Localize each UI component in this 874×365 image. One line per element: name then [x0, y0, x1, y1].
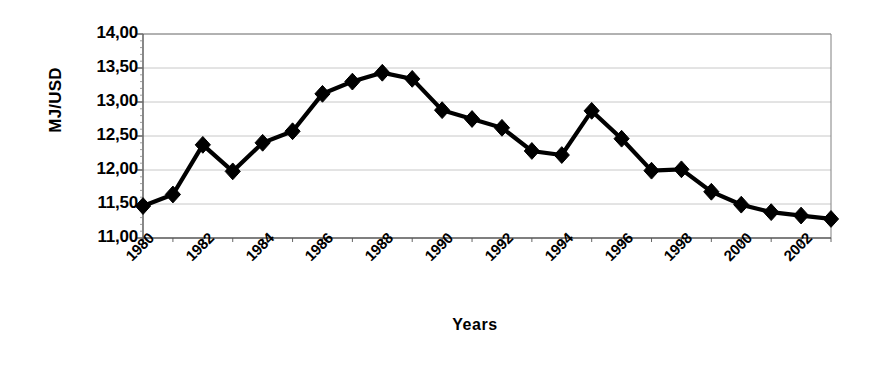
data-point-marker	[375, 64, 390, 81]
y-axis-tick-label: 11,50	[60, 193, 138, 213]
data-point-marker	[793, 207, 808, 224]
data-point-marker	[734, 196, 749, 213]
data-point-marker	[464, 111, 479, 128]
y-axis-tick-label: 13,50	[60, 57, 138, 77]
y-axis-tick-labels: 11,0011,5012,0012,5013,0013,5014,00	[52, 0, 138, 365]
data-point-marker	[345, 73, 360, 90]
y-axis-tick-label: 12,50	[60, 125, 138, 145]
x-axis-title: Years	[395, 316, 555, 334]
data-line	[143, 73, 831, 219]
chart-container: MJ/USD Years 11,0011,5012,0012,5013,0013…	[0, 0, 874, 365]
y-axis-tick-label: 11,00	[60, 227, 138, 247]
data-point-marker	[823, 211, 838, 228]
data-point-marker	[764, 204, 779, 221]
y-axis-tick-label: 12,00	[60, 159, 138, 179]
y-axis-tick-label: 14,00	[60, 23, 138, 43]
y-axis-tick-label: 13,00	[60, 91, 138, 111]
